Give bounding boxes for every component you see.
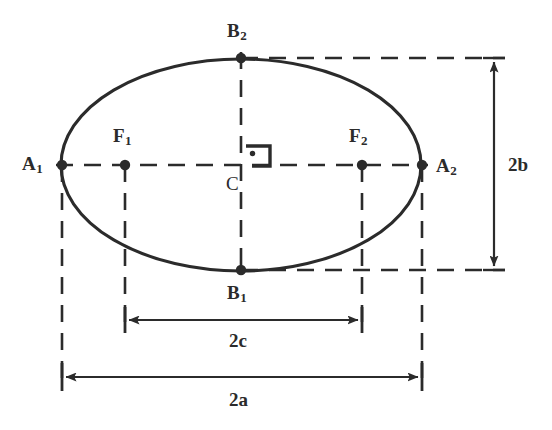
label-covertex-top: B2 [227, 21, 247, 42]
label-dimension-2a: 2a [229, 390, 248, 409]
ellipse-diagram: A1 A2 B2 B1 F1 F2 C 2b 2c 2a [0, 0, 552, 430]
label-vertex-left-sub: 1 [36, 161, 43, 176]
point-B1 [236, 265, 246, 275]
label-covertex-bottom-sub: 1 [240, 290, 247, 305]
label-covertex-bottom-base: B [227, 282, 240, 303]
point-A2 [417, 160, 427, 170]
label-focus-left: F1 [113, 126, 132, 147]
label-center: C [226, 174, 239, 193]
label-focus-left-sub: 1 [125, 133, 132, 148]
label-vertex-left: A1 [22, 154, 43, 175]
point-A1 [57, 160, 67, 170]
label-covertex-bottom: B1 [227, 283, 247, 304]
ellipse-diagram-canvas [0, 0, 552, 430]
label-focus-right-base: F [349, 125, 361, 146]
label-focus-right-sub: 2 [361, 133, 368, 148]
label-covertex-top-sub: 2 [240, 28, 247, 43]
label-vertex-left-base: A [22, 153, 36, 174]
label-covertex-top-base: B [227, 20, 240, 41]
label-vertex-right-base: A [436, 155, 450, 176]
right-angle-marker-icon [246, 146, 270, 166]
label-dimension-2c: 2c [229, 331, 247, 350]
point-F2 [357, 160, 367, 170]
point-B2 [236, 53, 246, 63]
label-focus-right: F2 [349, 126, 368, 147]
label-focus-left-base: F [113, 125, 125, 146]
dimension-2b [483, 58, 505, 270]
dimension-2a [62, 363, 422, 391]
label-vertex-right: A2 [436, 156, 457, 177]
point-F1 [120, 160, 130, 170]
label-dimension-2b: 2b [508, 155, 528, 174]
label-vertex-right-sub: 2 [450, 163, 457, 178]
